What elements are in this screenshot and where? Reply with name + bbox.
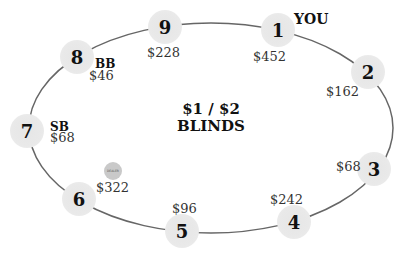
- seat-7-stack: $68: [50, 131, 75, 144]
- blinds-text: BLINDS: [177, 118, 245, 135]
- dealer-button-icon: DEALER: [104, 162, 122, 180]
- seat-6-stack: $322: [96, 181, 129, 194]
- seat-5[interactable]: 5: [165, 214, 199, 248]
- seat-4-stack: $242: [270, 193, 303, 206]
- seat-1-stack: $452: [253, 50, 286, 63]
- seat-3-stack: $68: [336, 160, 361, 173]
- seat-5-stack: $96: [172, 202, 197, 215]
- seat-3[interactable]: 3: [357, 152, 391, 186]
- seat-1[interactable]: 1: [261, 13, 295, 47]
- seat-7[interactable]: 7: [10, 114, 44, 148]
- you-label: YOU: [294, 12, 328, 26]
- seat-6[interactable]: 6: [62, 182, 96, 216]
- seat-4[interactable]: 4: [277, 205, 311, 239]
- seat-9[interactable]: 9: [148, 10, 182, 44]
- seat-9-stack: $228: [147, 46, 180, 59]
- blinds-label: $1 / $2 BLINDS: [177, 101, 245, 135]
- blinds-amount: $1 / $2: [177, 101, 245, 118]
- seat-2-stack: $162: [326, 85, 359, 98]
- seat-8-stack: $46: [89, 69, 114, 82]
